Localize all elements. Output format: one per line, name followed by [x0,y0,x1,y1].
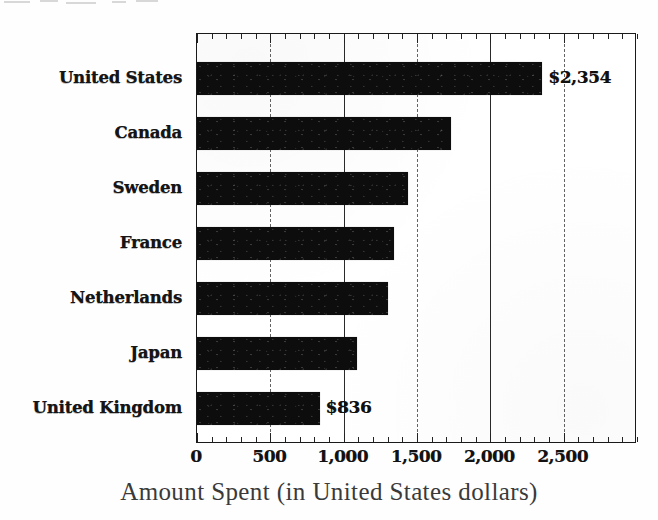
bar-united-states [197,62,542,95]
category-axis-labels: United StatesCanadaSwedenFranceNetherlan… [0,33,190,443]
tick-200 [226,437,227,442]
tick-1000 [344,433,345,442]
tick-100 [212,34,213,39]
tick-2600 [578,437,579,442]
tick-1000 [344,34,345,43]
tick-2000 [490,433,491,442]
bar-canada [197,117,451,150]
category-label-japan: Japan [130,342,182,362]
value-label-united-states: $2,354 [548,67,611,87]
tick-2800 [608,34,609,39]
category-label-sweden: Sweden [113,177,182,197]
tick-700 [300,437,301,442]
tick-900 [329,34,330,39]
tick-2600 [578,34,579,39]
tick-2100 [505,34,506,39]
tick-2400 [549,34,550,39]
x-axis-ticks-top [197,34,635,43]
tick-2500 [564,34,565,43]
tick-2300 [534,437,535,442]
tick-900 [329,437,330,442]
tick-2800 [608,437,609,442]
tick-2100 [505,437,506,442]
tick-1500 [417,34,418,43]
tick-1800 [461,34,462,39]
bar-japan [197,337,357,370]
scan-artifact-marks [0,0,200,10]
tick-1100 [358,437,359,442]
value-label-united-kingdom: $836 [326,397,372,417]
tick-1300 [388,34,389,39]
x-axis-title: Amount Spent (in United States dollars) [0,478,658,506]
tick-100 [212,437,213,442]
gridline-1500 [417,34,418,442]
xtick-label-1500: 1,500 [391,446,442,466]
tick-600 [285,437,286,442]
tick-700 [300,34,301,39]
tick-2700 [593,437,594,442]
tick-2900 [622,34,623,39]
tick-1900 [476,437,477,442]
tick-1700 [446,437,447,442]
tick-1400 [402,34,403,39]
tick-1200 [373,34,374,39]
category-label-canada: Canada [114,122,182,142]
tick-3000 [637,34,638,39]
xtick-label-500: 500 [252,446,286,466]
tick-800 [314,437,315,442]
tick-400 [256,34,257,39]
gridline-2500 [564,34,565,442]
tick-0 [197,34,198,43]
tick-1700 [446,34,447,39]
tick-300 [241,437,242,442]
bar-sweden [197,172,408,205]
tick-500 [270,34,271,43]
x-axis-tick-labels: 05001,0001,5002,0002,500 [196,446,636,472]
xtick-label-1000: 1,000 [317,446,368,466]
tick-1600 [432,437,433,442]
bar-united-kingdom [197,392,320,425]
bar-france [197,227,394,260]
tick-1600 [432,34,433,39]
tick-800 [314,34,315,39]
tick-500 [270,433,271,442]
xtick-label-0: 0 [190,446,201,466]
tick-200 [226,34,227,39]
tick-600 [285,34,286,39]
category-label-united-states: United States [59,67,182,87]
x-axis-ticks-bottom [197,433,635,442]
category-label-france: France [120,232,182,252]
category-label-united-kingdom: United Kingdom [33,397,182,417]
tick-2900 [622,437,623,442]
tick-1500 [417,433,418,442]
tick-1100 [358,34,359,39]
tick-2400 [549,437,550,442]
tick-2700 [593,34,594,39]
bar-netherlands [197,282,388,315]
gridline-2000 [490,34,491,442]
tick-1900 [476,34,477,39]
tick-2000 [490,34,491,43]
tick-0 [197,433,198,442]
category-label-netherlands: Netherlands [70,287,182,307]
tick-2500 [564,433,565,442]
tick-1400 [402,437,403,442]
plot-area [196,33,636,443]
tick-2200 [520,437,521,442]
tick-400 [256,437,257,442]
xtick-label-2500: 2,500 [537,446,588,466]
xtick-label-2000: 2,000 [464,446,515,466]
tick-1800 [461,437,462,442]
bar-chart-figure: United StatesCanadaSwedenFranceNetherlan… [0,0,658,520]
tick-300 [241,34,242,39]
tick-1200 [373,437,374,442]
tick-2300 [534,34,535,39]
tick-2200 [520,34,521,39]
tick-3000 [637,437,638,442]
tick-1300 [388,437,389,442]
